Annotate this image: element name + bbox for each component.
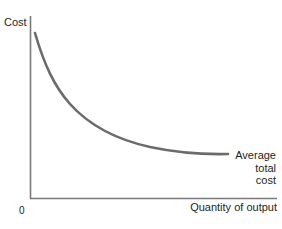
curve-annotation-line-1: Average [196, 149, 276, 162]
average-total-cost-curve [35, 33, 228, 154]
chart-plot-area [0, 0, 282, 229]
x-axis-label: Quantity of output [190, 201, 277, 213]
origin-label: 0 [19, 205, 25, 217]
cost-curve-figure: Cost 0 Quantity of output Average total … [0, 0, 282, 229]
curve-annotation-line-3: cost [196, 174, 276, 187]
y-axis-label: Cost [4, 16, 27, 28]
curve-annotation-line-2: total [196, 162, 276, 175]
curve-annotation-label: Average total cost [196, 149, 276, 187]
